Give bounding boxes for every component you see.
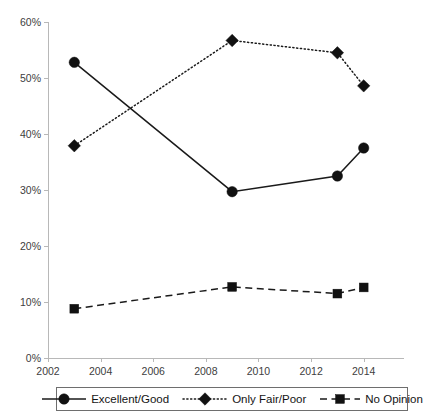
y-axis-tick-label: 10% xyxy=(20,296,41,308)
data-series-group xyxy=(68,34,370,313)
legend-swatch-square-icon xyxy=(319,392,361,406)
chart-legend: Excellent/GoodOnly Fair/PoorNo Opinion xyxy=(56,387,408,411)
legend-entry[interactable]: No Opinion xyxy=(319,392,423,406)
legend-label: Excellent/Good xyxy=(91,393,169,405)
series-no-opinion xyxy=(70,282,368,313)
y-axis-tick-label: 20% xyxy=(20,240,41,252)
legend-items: Excellent/GoodOnly Fair/PoorNo Opinion xyxy=(41,392,423,406)
x-axis-tick-label: 2006 xyxy=(142,365,166,377)
y-axis-tick-label: 60% xyxy=(20,16,41,28)
data-point xyxy=(227,186,237,196)
data-point xyxy=(68,140,80,152)
x-axis-tick-label: 2010 xyxy=(247,365,271,377)
y-axis: 0%10%20%30%40%50%60% xyxy=(20,16,49,364)
data-point xyxy=(332,171,342,181)
x-axis-tick-label: 2002 xyxy=(36,365,60,377)
data-point xyxy=(226,34,238,46)
data-point xyxy=(331,47,343,59)
data-point xyxy=(358,143,368,153)
data-point xyxy=(228,282,237,291)
data-point xyxy=(70,304,79,313)
x-axis-tick-label: 2008 xyxy=(194,365,218,377)
legend-swatch-circle-icon xyxy=(41,392,87,406)
legend-swatch-diamond-icon xyxy=(182,392,228,406)
x-axis: 2002200420062008201020122014 xyxy=(36,358,404,377)
data-point xyxy=(69,57,79,67)
series-line xyxy=(74,40,363,145)
y-axis-tick-label: 0% xyxy=(26,352,41,364)
legend-entry[interactable]: Excellent/Good xyxy=(41,392,169,406)
x-axis-tick-label: 2014 xyxy=(352,365,376,377)
series-line xyxy=(74,62,363,191)
x-axis-tick-label: 2012 xyxy=(299,365,323,377)
y-axis-tick-label: 30% xyxy=(20,184,41,196)
x-axis-tick-label: 2004 xyxy=(89,365,113,377)
series-excellent-good xyxy=(69,57,369,197)
series-only-fair-poor xyxy=(68,34,370,152)
series-line xyxy=(74,287,363,309)
y-axis-tick-label: 50% xyxy=(20,72,41,84)
data-point xyxy=(333,289,342,298)
legend-entry[interactable]: Only Fair/Poor xyxy=(182,392,306,406)
y-axis-tick-label: 40% xyxy=(20,128,41,140)
legend-label: No Opinion xyxy=(365,393,423,405)
data-point xyxy=(359,283,368,292)
legend-label: Only Fair/Poor xyxy=(232,393,306,405)
